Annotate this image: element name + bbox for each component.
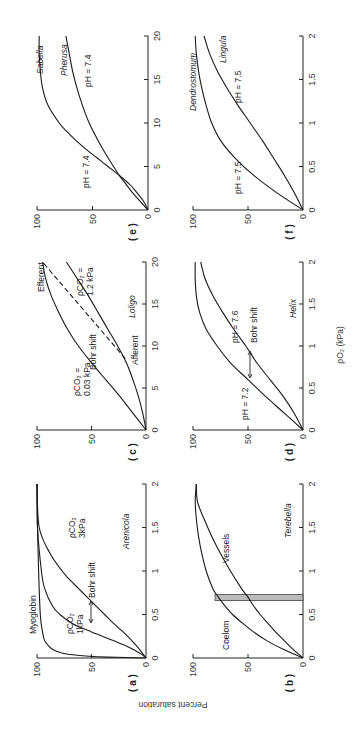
annotation-c-pco2-high-line2: 1.2 kPa (85, 267, 95, 296)
x-tick-label-f-2: 1 (307, 120, 317, 125)
panel-label-f: ( f ) (284, 224, 295, 240)
oxygen-dissociation-figure: 00.511.5205010000.511.520501000510152005… (0, 0, 356, 752)
species-terebella: Terebella (283, 503, 293, 538)
series-line-f-0 (195, 36, 303, 210)
x-tick-label-d-0: 0 (307, 427, 317, 432)
panel-d: 00.511.52050100 (188, 259, 317, 449)
x-tick-label-e-1: 5 (152, 164, 162, 169)
species-arenicola: Arenicola (121, 513, 131, 550)
y-tick-label-e-2: 100 (32, 214, 42, 229)
series-line-d-1 (201, 262, 303, 430)
annotation-c-pco2-low-line1: ρCO₂ = (72, 368, 82, 396)
y-tick-label-a-1: 50 (87, 662, 97, 672)
y-tick-label-a-0: 0 (141, 662, 151, 667)
x-axis-title: ρO₂ (kPa) (335, 326, 345, 364)
panel-label-c: ( c ) (127, 443, 138, 461)
annotation-afferent: Afferent (130, 335, 140, 365)
x-tick-label-b-3: 1.5 (307, 521, 317, 534)
x-tick-label-c-3: 15 (150, 299, 160, 309)
y-tick-label-f-2: 100 (188, 214, 198, 229)
x-tick-label-b-0: 0 (307, 655, 317, 660)
y-tick-label-d-2: 100 (188, 434, 198, 449)
y-tick-label-c-1: 50 (87, 434, 97, 444)
annotation-a-pco2-1kpa-line2: 1kPa (75, 614, 85, 634)
panel-label-b: ( b ) (284, 674, 295, 692)
x-tick-label-f-1: 0.5 (307, 160, 317, 173)
x-tick-label-a-0: 0 (150, 655, 160, 660)
annotation-f-ph2: pH = 7.5 (233, 70, 243, 103)
x-tick-label-f-0: 0 (307, 207, 317, 212)
y-tick-label-c-2: 100 (32, 434, 42, 449)
series-line-e-1 (66, 36, 148, 210)
annotation-a-pco2-3kpa-line2: 3kPa (77, 518, 87, 538)
species-dendrostomum: Dendrostomum (188, 53, 198, 111)
panel-label-a: ( a ) (127, 674, 138, 692)
x-tick-label-d-4: 2 (307, 259, 317, 264)
annotation-d-bohr-shift: Bohr shift (249, 306, 259, 343)
x-tick-label-d-1: 0.5 (307, 382, 317, 395)
x-tick-label-e-3: 15 (152, 74, 162, 84)
panels-group: 00.511.5205010000.511.520501000510152005… (32, 31, 317, 677)
annotation-c-bohr-shift: Bohr shift (88, 333, 98, 370)
y-tick-label-b-2: 100 (188, 662, 198, 677)
panel-b: 00.511.52050100 (188, 481, 317, 677)
y-tick-label-b-1: 50 (243, 662, 253, 672)
annotation-vessels: Vessels (221, 534, 231, 563)
x-tick-label-f-3: 1.5 (307, 73, 317, 86)
annotation-ph-7-6: pH = 7.6 (230, 310, 240, 343)
annotation-a-bohr-shift: Bohr shift (87, 561, 97, 598)
species-pherusa: Pherusa (59, 44, 69, 76)
annotation-myoglobin: Myoglobin (28, 595, 38, 634)
x-tick-label-e-0: 0 (152, 207, 162, 212)
annotation-efferent: Efferent (36, 262, 46, 292)
y-tick-label-c-0: 0 (141, 434, 151, 439)
annotation-ph-7-2: pH = 7.2 (240, 387, 250, 420)
annotation-c-pco2-high-line1: ρCO₂ = (75, 268, 85, 296)
x-tick-label-f-4: 2 (307, 33, 317, 38)
y-tick-label-f-0: 0 (298, 214, 308, 219)
x-tick-label-b-1: 0.5 (307, 608, 317, 621)
panel-label-d: ( d ) (284, 443, 295, 461)
annotation-f-ph1: pH = 7.5 (233, 161, 243, 194)
species-sabella: Sabella (35, 45, 45, 74)
x-tick-label-a-3: 1.5 (150, 521, 160, 534)
x-tick-label-d-3: 1.5 (307, 298, 317, 311)
x-tick-label-a-2: 1 (150, 568, 160, 573)
panel-label-e: ( e ) (127, 223, 138, 241)
x-tick-label-e-4: 20 (152, 31, 162, 41)
x-tick-label-a-4: 2 (150, 481, 160, 486)
annotation-e-ph1: pH = 7.4 (81, 155, 91, 188)
species-loligo: Loligo (127, 295, 137, 318)
y-tick-label-e-0: 0 (143, 214, 153, 219)
annotation-a-pco2-3kpa-line1: ρCO₂ (67, 517, 77, 538)
annotation-a-pco2-1kpa-line1: ρCO₂ (65, 613, 75, 634)
panel-e: 05101520050100 (32, 31, 162, 229)
species-helix: Helix (288, 298, 298, 318)
shaded-band-b (215, 594, 303, 600)
x-tick-label-b-2: 1 (307, 568, 317, 573)
y-tick-label-f-1: 50 (243, 214, 253, 224)
x-tick-label-e-2: 10 (152, 118, 162, 128)
x-tick-label-c-4: 20 (150, 257, 160, 267)
x-tick-label-c-2: 10 (150, 341, 160, 351)
x-tick-label-c-0: 0 (150, 427, 160, 432)
series-line-e-0 (39, 36, 148, 210)
species-lingula: Lingula (218, 35, 228, 63)
y-tick-label-d-0: 0 (298, 434, 308, 439)
x-tick-label-b-4: 2 (307, 481, 317, 486)
y-tick-label-e-1: 50 (88, 214, 98, 224)
y-tick-label-d-1: 50 (243, 434, 253, 444)
y-tick-label-b-0: 0 (298, 662, 308, 667)
x-tick-label-d-2: 1 (307, 343, 317, 348)
x-tick-label-a-1: 0.5 (150, 608, 160, 621)
annotation-coelom: Coelom (221, 621, 231, 650)
annotation-e-ph2: pH = 7.4 (83, 54, 93, 87)
panel-f: 00.511.52050100 (188, 33, 317, 229)
y-tick-label-a-2: 100 (32, 662, 42, 677)
x-tick-label-c-1: 5 (150, 385, 160, 390)
y-axis-title: Percent saturation (138, 700, 207, 710)
